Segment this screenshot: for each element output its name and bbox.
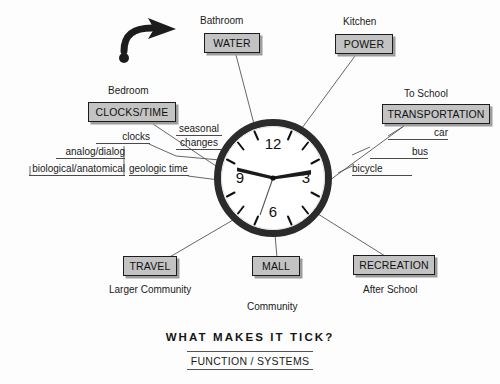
node-transportation-label: TRANSPORTATION [387,108,484,120]
node-clocks-time[interactable]: CLOCKS/TIME [88,102,176,122]
sublabel-seasonal-line1: seasonal [176,123,222,136]
wire-mall-to-clock [275,234,277,258]
sublabel-seasonal-line2: changes [176,137,222,150]
node-water[interactable]: WATER [204,33,260,53]
sublabel-analog-dialog: analog/dialog [56,146,125,159]
wire-bicycle-rule-tail [338,166,352,173]
caption-community: Community [247,301,298,312]
node-recreation-label: RECREATION [359,259,429,271]
sublabel-bicycle: bicycle [352,163,412,176]
clock-number-6: 6 [269,203,277,220]
sublabel-geologic-time: geologic time [129,163,189,176]
wire-water-to-clock [236,55,254,124]
clock-number-12: 12 [265,135,282,152]
page-title: WHAT MAKES IT TICK? [150,331,350,343]
caption-bedroom: Bedroom [108,85,149,96]
caption-kitchen: Kitchen [343,16,376,27]
clock-center-pin [270,175,275,180]
sublabel-car: car [388,127,448,140]
node-travel[interactable]: TRAVEL [123,256,177,276]
sublabel-bus: bus [370,146,428,159]
sublabel-clocks: clocks [96,131,150,144]
node-water-label: WATER [213,37,251,49]
caption-to-school: To School [404,88,448,99]
page-subtitle: FUNCTION / SYSTEMS [187,351,314,370]
caption-larger-community: Larger Community [109,284,191,295]
caption-bathroom: Bathroom [200,15,243,26]
node-recreation[interactable]: RECREATION [353,255,435,275]
wire-bus-rule-tail [352,147,370,155]
wire-clocks-rule-tail [149,144,176,156]
node-power-label: POWER [344,38,384,50]
node-power[interactable]: POWER [335,34,393,54]
node-mall-label: MALL [262,260,290,272]
caption-after-school: After School [363,284,417,295]
title-block: WHAT MAKES IT TICK? FUNCTION / SYSTEMS [150,331,350,370]
node-travel-label: TRAVEL [130,260,171,272]
wire-power-to-clock [302,56,355,128]
node-transportation[interactable]: TRANSPORTATION [382,104,490,124]
curved-pointer-arrow [112,18,192,66]
node-mall[interactable]: MALL [252,256,300,276]
diagram-canvas: 12 3 6 9 Bathroom Kitchen To School Bedr… [0,0,500,384]
sublabel-biological-anatomical: biological/anatomical [29,163,125,176]
node-clocks-time-label: CLOCKS/TIME [96,106,169,118]
analog-wall-clock: 12 3 6 9 [214,119,332,237]
